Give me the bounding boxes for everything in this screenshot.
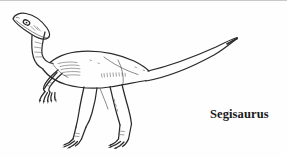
- arms-group: [39, 70, 62, 104]
- neck-group: [32, 32, 53, 69]
- dinosaur-illustration: [0, 0, 287, 158]
- legs-group: [62, 85, 131, 150]
- species-caption: Segisaurus: [210, 107, 282, 122]
- torso-group: [43, 51, 149, 88]
- tail-group: [146, 37, 238, 81]
- figure-plate: Segisaurus: [0, 0, 287, 158]
